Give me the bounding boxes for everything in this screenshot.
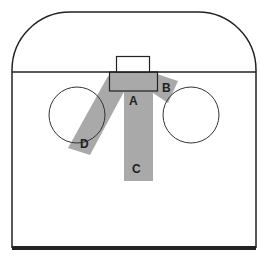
label-c: C	[132, 162, 141, 176]
court-diagram: A B C D	[0, 0, 261, 258]
zone-a-upper	[109, 72, 124, 91]
goal-box	[117, 57, 150, 73]
right-circle	[163, 87, 219, 143]
label-a: A	[129, 94, 138, 108]
label-d: D	[80, 137, 89, 151]
label-b: B	[162, 81, 171, 95]
